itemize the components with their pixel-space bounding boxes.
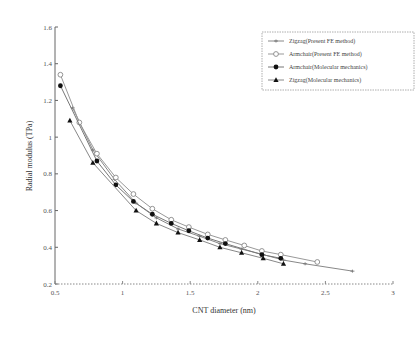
circle-filled-marker (223, 241, 228, 246)
cross-marker (303, 262, 307, 265)
y-tick-label: 0.2 (43, 281, 52, 289)
legend-label: Zigzag(Molecular mechanics) (289, 77, 361, 84)
circle-open-marker (58, 72, 63, 77)
series-3 (67, 118, 286, 266)
x-tick-label: 2 (256, 289, 260, 297)
y-tick-label: 1.2 (43, 97, 52, 105)
triangle-filled-marker (67, 118, 72, 123)
circle-open-marker (274, 52, 279, 57)
circle-open-marker (113, 175, 118, 180)
x-axis-label: CNT diameter (nm) (192, 306, 256, 315)
circle-filled-marker (150, 212, 155, 217)
legend: Zigzag(Present FE method)Armchair(Presen… (262, 32, 414, 90)
y-tick-label: 0.6 (43, 207, 52, 215)
x-tick-label: 0.5 (51, 289, 60, 297)
y-tick-label: 1.6 (43, 24, 52, 32)
x-tick-label: 3 (391, 289, 395, 297)
series-line (70, 121, 284, 264)
circle-open-marker (315, 260, 320, 265)
y-tick-label: 1.4 (43, 60, 52, 68)
circle-open-marker (150, 206, 155, 211)
series-line (73, 108, 353, 271)
legend-label: Armchair(Molecular mechanics) (289, 64, 367, 71)
y-tick-label: 0.4 (43, 244, 52, 252)
circle-open-marker (95, 151, 100, 156)
series-line (60, 75, 317, 262)
y-axis-label: Radial modulus (TPa) (25, 120, 34, 191)
series-0 (71, 106, 355, 272)
x-tick-label: 2.5 (321, 289, 330, 297)
cross-marker (350, 270, 354, 273)
legend-label: Zigzag(Present FE method) (289, 38, 355, 45)
legend-label: Armchair(Present FE method) (289, 51, 362, 58)
circle-open-marker (131, 192, 136, 197)
x-tick-label: 1.5 (186, 289, 195, 297)
series-2 (58, 83, 283, 260)
series-group (58, 72, 354, 272)
circle-filled-marker (278, 256, 283, 261)
x-tick-label: 1 (121, 289, 125, 297)
circle-filled-marker (186, 228, 191, 233)
chart-canvas: 0.20.40.60.811.21.41.60.511.522.53 Zigza… (0, 0, 419, 337)
circle-filled-marker (274, 65, 279, 70)
circle-filled-marker (169, 221, 174, 226)
circle-filled-marker (131, 199, 136, 204)
circle-filled-marker (58, 83, 63, 88)
circle-filled-marker (205, 236, 210, 241)
circle-open-marker (242, 243, 247, 248)
y-tick-label: 1 (49, 134, 53, 142)
series-line (60, 86, 280, 259)
circle-filled-marker (95, 159, 100, 164)
triangle-filled-marker (154, 221, 159, 226)
y-tick-label: 0.8 (43, 170, 52, 178)
